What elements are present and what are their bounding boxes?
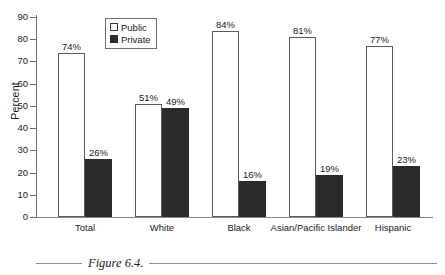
bar-value-label: 19% bbox=[320, 164, 339, 174]
legend-item-private[interactable]: Private bbox=[110, 33, 151, 45]
y-tick-label: 70 bbox=[6, 56, 28, 66]
bar-private-black[interactable]: 16% bbox=[239, 181, 266, 217]
bar-value-label: 49% bbox=[166, 97, 185, 107]
filled-square-swatch-icon bbox=[110, 35, 118, 43]
figure-6-4: Percent 90 80 70 60 50 40 30 20 10 0 74%… bbox=[0, 0, 445, 275]
y-tick-label: 10 bbox=[6, 190, 28, 200]
caption-text: Figure 6.4. bbox=[88, 257, 143, 270]
bar-value-label: 74% bbox=[62, 42, 81, 52]
bar-value-label: 51% bbox=[139, 93, 158, 103]
y-tick-label: 90 bbox=[6, 12, 28, 22]
y-tick-label: 40 bbox=[6, 123, 28, 133]
bar-public-asian-pacific-islander[interactable]: 81% bbox=[289, 37, 316, 217]
caption-rule-right bbox=[149, 263, 437, 264]
bar-private-hispanic[interactable]: 23% bbox=[393, 166, 420, 217]
bar-group-hispanic: 77% 23% bbox=[366, 17, 420, 217]
bar-value-label: 77% bbox=[370, 35, 389, 45]
x-axis-line bbox=[36, 217, 433, 218]
bar-private-asian-pacific-islander[interactable]: 19% bbox=[316, 175, 343, 217]
x-category-label-hispanic: Hispanic bbox=[338, 222, 445, 234]
y-tick-label: 60 bbox=[6, 79, 28, 89]
bar-public-black[interactable]: 84% bbox=[212, 31, 239, 217]
bar-group-asian-pacific-islander: 81% 19% bbox=[289, 17, 343, 217]
plot-area: 74% 26% 51% 49% 84% 16% bbox=[36, 17, 432, 217]
bar-value-label: 81% bbox=[293, 26, 312, 36]
y-tick-label: 20 bbox=[6, 168, 28, 178]
legend: Public Private bbox=[105, 18, 157, 49]
bar-group-black: 84% 16% bbox=[212, 17, 266, 217]
bar-private-total[interactable]: 26% bbox=[85, 159, 112, 217]
legend-item-public[interactable]: Public bbox=[110, 21, 151, 33]
bar-value-label: 84% bbox=[216, 20, 235, 30]
figure-caption: Figure 6.4. bbox=[0, 255, 445, 271]
bar-public-total[interactable]: 74% bbox=[58, 53, 85, 217]
y-tick-mark bbox=[30, 217, 37, 218]
bar-value-label: 23% bbox=[397, 155, 416, 165]
y-tick-label: 30 bbox=[6, 145, 28, 155]
bar-private-white[interactable]: 49% bbox=[162, 108, 189, 217]
caption-rule-left bbox=[36, 263, 82, 264]
legend-label: Private bbox=[121, 34, 151, 45]
legend-label: Public bbox=[121, 22, 147, 33]
y-tick-label: 50 bbox=[6, 101, 28, 111]
y-tick-label: 0 bbox=[6, 212, 28, 222]
y-tick-label: 80 bbox=[6, 34, 28, 44]
bar-value-label: 26% bbox=[89, 148, 108, 158]
bar-public-white[interactable]: 51% bbox=[135, 104, 162, 217]
bar-group-total: 74% 26% bbox=[58, 17, 112, 217]
bar-public-hispanic[interactable]: 77% bbox=[366, 46, 393, 217]
open-square-swatch-icon bbox=[110, 23, 118, 31]
bar-value-label: 16% bbox=[243, 170, 262, 180]
